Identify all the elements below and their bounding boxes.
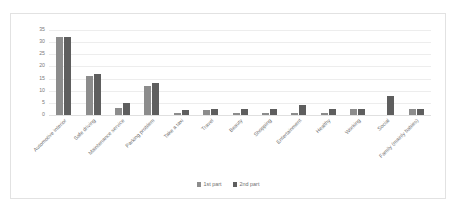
bar [94,74,101,115]
x-axis-label: Beauty [228,118,243,133]
y-axis-tick: 25 [39,52,45,57]
y-axis-tick: 10 [39,88,45,93]
bar [350,109,357,115]
legend-swatch-icon [233,182,238,187]
x-axis-label: Take a taxi [163,118,185,140]
x-axis-label: Healthy [315,118,331,134]
chart-legend: 1st part2nd part [11,182,445,187]
bar-group [255,30,284,115]
bar [262,113,269,115]
bar-group [49,30,78,115]
bar [123,103,130,115]
x-axis-label: Working [344,118,361,135]
plot-area: 05101520253035 [49,30,431,115]
bar-group [284,30,313,115]
bar-group [78,30,107,115]
bar [270,109,277,115]
x-axis-label: Safe driving [73,118,97,142]
bar [182,110,189,115]
bar [115,108,122,115]
y-axis-tick: 0 [42,112,45,117]
legend-label: 1st part [204,182,222,187]
bar [321,113,328,115]
bar-group [314,30,343,115]
bar-group [372,30,401,115]
legend-item[interactable]: 1st part [197,182,222,187]
bar [409,109,416,115]
x-axis-label: Parking problem [125,118,156,149]
bar [299,105,306,115]
bar-group [108,30,137,115]
x-axis-label: Automotive interior [32,118,67,153]
bar [56,37,63,115]
bar-group [137,30,166,115]
bar [64,37,71,115]
bar [329,109,336,115]
x-axis-label: Travel [200,118,214,132]
bar [417,109,424,115]
y-axis-tick: 20 [39,64,45,69]
x-axis-label: Shopping [254,118,274,138]
y-axis-tick: 15 [39,76,45,81]
bar [152,83,159,115]
gridline [49,115,431,116]
bar [291,113,298,115]
bar [86,76,93,115]
legend-label: 2nd part [240,182,260,187]
chart-frame: 05101520253035 Automotive interiorSafe d… [10,13,446,199]
bar [203,110,210,115]
y-axis-tick: 35 [39,27,45,32]
bar [211,109,218,115]
bar [174,113,181,115]
bar [144,86,151,115]
bar-group [196,30,225,115]
legend-item[interactable]: 2nd part [233,182,260,187]
x-axis-label: Entertainment [275,118,302,145]
bar [387,96,394,115]
bar-group [402,30,431,115]
bar [241,109,248,115]
legend-swatch-icon [197,182,202,187]
bar [233,113,240,115]
bar-series-layer [49,30,431,115]
y-axis-tick: 5 [42,100,45,105]
bar [358,109,365,115]
bar-group [343,30,372,115]
y-axis-tick: 30 [39,40,45,45]
bar-group [225,30,254,115]
bar-group [167,30,196,115]
x-axis-label: Social [377,118,391,132]
